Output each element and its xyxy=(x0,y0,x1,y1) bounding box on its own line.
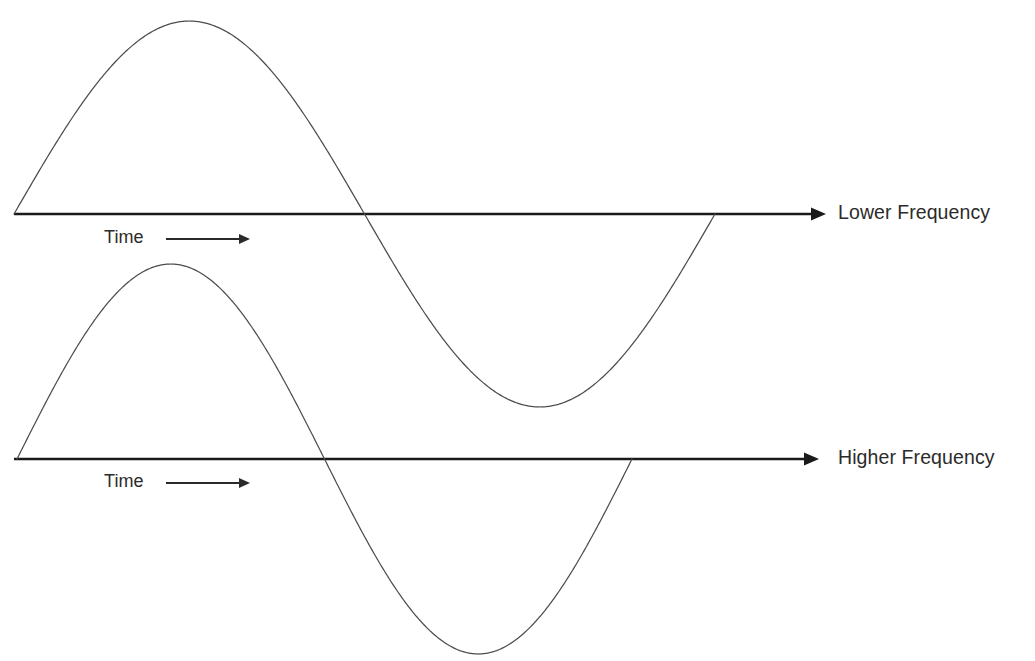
time-label-lower: Time xyxy=(104,472,144,490)
lower-frequency-wave-group xyxy=(14,21,826,407)
frequency-diagram: Lower Frequency Higher Frequency Time Ti… xyxy=(0,0,1035,661)
time-arrow-upper-group xyxy=(166,234,250,244)
higher-frequency-label: Higher Frequency xyxy=(838,448,995,468)
lower-axis-arrowhead xyxy=(804,453,819,466)
lower-frequency-label: Lower Frequency xyxy=(838,203,990,223)
time-arrow-lower-head xyxy=(239,478,250,488)
time-label-upper: Time xyxy=(104,228,144,246)
wave-canvas xyxy=(0,0,1035,661)
higher-frequency-wave-group xyxy=(14,264,819,654)
time-arrow-lower-group xyxy=(166,478,250,488)
upper-axis-arrowhead xyxy=(811,208,826,221)
time-arrow-upper-head xyxy=(239,234,250,244)
